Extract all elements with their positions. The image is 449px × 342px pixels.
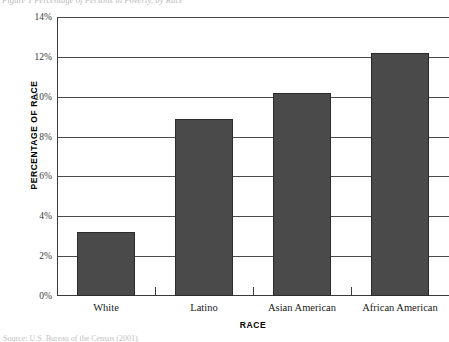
x-tick-label-white: White [93, 302, 119, 313]
x-axis-tick [155, 287, 156, 296]
y-axis-title: PERCENTAGE OF RACE [29, 55, 39, 215]
figure-caption: Figure 1 Percentage of Persons in Povert… [2, 0, 447, 5]
x-axis-tick [253, 287, 254, 296]
x-tick-label-african-american: African American [362, 302, 438, 313]
source-note: Source: U.S. Bureau of the Census (2001)… [3, 334, 303, 342]
x-tick-label-asian-american: Asian American [268, 302, 336, 313]
y-tick-label: 8% [39, 132, 52, 142]
y-tick-label: 4% [39, 211, 52, 221]
y-tick-label: 12% [35, 52, 52, 62]
bar-latino [175, 119, 234, 296]
y-axis-line [57, 17, 58, 296]
y-tick-label: 6% [39, 171, 52, 181]
y-tick-label: 2% [39, 251, 52, 261]
y-tick-label: 14% [35, 12, 52, 22]
bar-asian-american [273, 93, 332, 296]
poverty-by-race-bar-chart: Figure 1 Percentage of Persons in Povert… [0, 0, 449, 342]
bar-white [77, 232, 136, 296]
plot-area: 0%2%4%6%8%10%12%14% [57, 17, 449, 296]
y-tick-label: 10% [35, 92, 52, 102]
y-tick-label: 0% [39, 291, 52, 301]
bar-african-american [371, 53, 430, 296]
gridline [57, 17, 449, 18]
x-axis-title: RACE [57, 320, 449, 330]
x-tick-label-latino: Latino [190, 302, 217, 313]
x-axis-tick [351, 287, 352, 296]
